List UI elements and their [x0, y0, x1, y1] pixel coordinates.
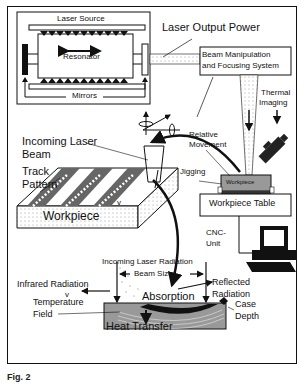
- temperature-field-label-1: Temperature: [33, 298, 84, 307]
- case-depth-label-2: Depth: [235, 312, 259, 321]
- workpiece-small-label: Workpiece: [226, 179, 254, 185]
- infrared-radiation-label: Infrared Radiation: [17, 280, 89, 289]
- reflected-radiation-label-1: Reflected: [212, 278, 250, 287]
- resonator-label: Resonator: [63, 53, 100, 61]
- temperature-field-label-2: Field: [33, 310, 53, 319]
- absorption-label: Absorption: [142, 291, 195, 303]
- cnc-label-1: CNC-: [206, 229, 226, 237]
- workpiece-table-label: Workpiece Table: [209, 199, 275, 208]
- beam-size-label: Beam Size: [134, 270, 173, 278]
- thermal-imaging-label-1: Thermal: [261, 89, 290, 97]
- relative-movement-label-2: Movement: [189, 141, 226, 149]
- relative-movement-label-1: Relative: [189, 131, 218, 139]
- incoming-laser-beam-label-1: Incoming Laser: [22, 136, 97, 148]
- incoming-laser-radiation-label: Incoming Laser Radiation: [102, 258, 193, 266]
- beam-manipulation-label: Beam Manipulation: [202, 51, 270, 59]
- thermal-imaging-label-2: Imaging: [259, 99, 287, 107]
- track-pattern-label-1: Track: [22, 166, 49, 178]
- jigging-label: Jigging: [180, 168, 205, 176]
- track-pattern-label-2: Pattern: [22, 179, 57, 191]
- laser-source-label: Laser Source: [57, 15, 105, 23]
- workpiece-label: Workpiece: [43, 210, 99, 223]
- focusing-system-label: and Focusing System: [202, 62, 279, 70]
- incoming-laser-beam-label-2: Beam: [22, 149, 51, 161]
- laser-output-power-label: Laser Output Power: [162, 22, 260, 34]
- mirrors-label: Mirrors: [70, 92, 99, 100]
- track-velocity-label: v: [117, 199, 121, 207]
- heat-transfer-label: Heat Transfer: [106, 321, 173, 333]
- case-depth-label-1: Case: [235, 300, 256, 309]
- cnc-label-2: Unit: [206, 240, 220, 248]
- figure-caption: Fig. 2: [7, 372, 31, 382]
